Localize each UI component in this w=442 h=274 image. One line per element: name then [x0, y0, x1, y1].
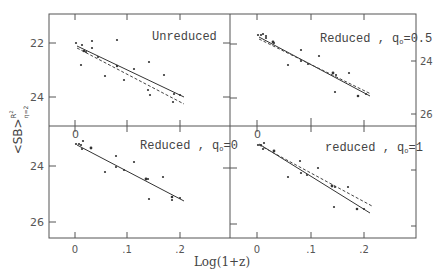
y-tick-22: 22: [30, 37, 44, 50]
zero-label-left: 0: [72, 128, 79, 141]
x-tick-0.1-right: .1: [306, 244, 316, 255]
y-tick-24: 24: [30, 160, 44, 173]
x-tick-0-right: 0: [254, 244, 260, 255]
panel-reduced-q0-0: 24 26 0 Reduced , qo=0: [30, 126, 238, 238]
fit-line-dashed: [77, 48, 184, 104]
right-y-tick-24: 24: [420, 56, 433, 67]
fit-line-solid: [77, 145, 184, 201]
svg-text:<SB>R2η=2: <SB>R2η=2: [8, 105, 30, 154]
fit-line-dashed: [259, 39, 371, 94]
data-points: [75, 39, 181, 103]
x-tick-0.2-left: .2: [175, 244, 185, 255]
x-tick-0.2-right: .2: [359, 244, 369, 255]
panel-title-reduced-q1: reduced , qo=1: [325, 141, 423, 155]
y-tick-26: 26: [30, 216, 44, 229]
y-tick-24: 24: [30, 91, 44, 104]
panel-title-reduced-q0: Reduced , qo=0: [140, 139, 238, 153]
y-axis-label: <SB>R2η=2: [8, 105, 30, 154]
fit-line-solid: [77, 46, 184, 97]
figure: 22 24 Unreduced 24 26 Reduced , qo=0.5: [0, 0, 442, 274]
panel-title-unreduced: Unreduced: [152, 30, 217, 44]
x-tick-0.1-left: .1: [122, 244, 132, 255]
panel-reduced-q0-0.5: 24 26 Reduced , qo=0.5: [230, 14, 433, 126]
panel-title-reduced-q05: Reduced , qo=0.5: [320, 32, 432, 46]
panel-unreduced: 22 24 Unreduced: [30, 14, 230, 126]
zero-label-right: 0: [254, 128, 261, 141]
x-tick-0-left: 0: [72, 244, 78, 255]
right-y-tick-26: 26: [420, 109, 433, 120]
x-axis-label: Log(1+z): [194, 255, 250, 269]
panel-reduced-q0-1: 0 reduced , qo=1: [230, 126, 423, 238]
